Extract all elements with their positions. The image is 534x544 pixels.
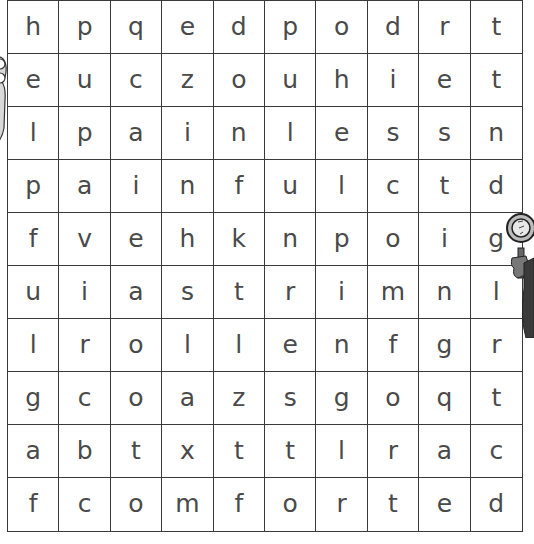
grid-cell[interactable]: z — [214, 372, 265, 425]
grid-cell[interactable]: i — [59, 266, 110, 319]
grid-cell[interactable]: r — [59, 319, 110, 372]
cartoon-character-icon — [0, 48, 8, 148]
grid-cell[interactable]: r — [316, 478, 367, 531]
grid-cell[interactable]: u — [265, 160, 316, 213]
grid-cell[interactable]: s — [419, 107, 470, 160]
magnifying-glass-icon — [504, 208, 534, 338]
grid-cell[interactable]: n — [265, 213, 316, 266]
grid-cell[interactable]: l — [8, 319, 59, 372]
grid-cell[interactable]: m — [368, 266, 419, 319]
grid-cell[interactable]: u — [8, 266, 59, 319]
grid-cell[interactable]: p — [316, 213, 367, 266]
grid-cell[interactable]: n — [162, 160, 213, 213]
grid-cell[interactable]: h — [162, 213, 213, 266]
grid-cell[interactable]: f — [368, 319, 419, 372]
grid-cell[interactable]: k — [214, 213, 265, 266]
grid-cell[interactable]: l — [162, 319, 213, 372]
grid-cell[interactable]: r — [368, 425, 419, 478]
grid-cell[interactable]: n — [471, 107, 522, 160]
grid-cell[interactable]: d — [214, 1, 265, 54]
grid-cell[interactable]: i — [111, 160, 162, 213]
grid-cell[interactable]: e — [419, 54, 470, 107]
grid-cell[interactable]: u — [59, 54, 110, 107]
grid-cell[interactable]: t — [419, 160, 470, 213]
grid-cell[interactable]: g — [8, 372, 59, 425]
grid-cell[interactable]: n — [419, 266, 470, 319]
grid-cell[interactable]: o — [111, 319, 162, 372]
grid-cell[interactable]: a — [8, 425, 59, 478]
grid-cell[interactable]: q — [111, 1, 162, 54]
grid-cell[interactable]: c — [471, 425, 522, 478]
grid-cell[interactable]: r — [265, 266, 316, 319]
grid-cell[interactable]: e — [265, 319, 316, 372]
grid-cell[interactable]: i — [368, 54, 419, 107]
grid-cell[interactable]: i — [419, 213, 470, 266]
grid-cell[interactable]: p — [8, 160, 59, 213]
grid-cell[interactable]: s — [265, 372, 316, 425]
grid-cell[interactable]: s — [368, 107, 419, 160]
word-search-grid: hpqedpodrteuczouhietlpainlessnpainfulctd… — [7, 0, 523, 532]
grid-cell[interactable]: f — [8, 478, 59, 531]
grid-cell[interactable]: i — [316, 266, 367, 319]
grid-cell[interactable]: z — [162, 54, 213, 107]
grid-cell[interactable]: e — [111, 213, 162, 266]
grid-cell[interactable]: d — [368, 1, 419, 54]
grid-cell[interactable]: o — [111, 372, 162, 425]
grid-cell[interactable]: d — [471, 478, 522, 531]
grid-cell[interactable]: g — [316, 372, 367, 425]
grid-cell[interactable]: a — [419, 425, 470, 478]
grid-cell[interactable]: f — [214, 160, 265, 213]
grid-cell[interactable]: g — [419, 319, 470, 372]
grid-cell[interactable]: o — [111, 478, 162, 531]
grid-cell[interactable]: t — [368, 478, 419, 531]
grid-cell[interactable]: m — [162, 478, 213, 531]
grid-cell[interactable]: t — [471, 1, 522, 54]
grid-cell[interactable]: t — [471, 372, 522, 425]
grid-cell[interactable]: l — [8, 107, 59, 160]
grid-cell[interactable]: i — [162, 107, 213, 160]
grid-cell[interactable]: t — [471, 54, 522, 107]
grid-cell[interactable]: c — [368, 160, 419, 213]
grid-cell[interactable]: p — [59, 1, 110, 54]
grid-cell[interactable]: e — [8, 54, 59, 107]
grid-cell[interactable]: t — [214, 266, 265, 319]
grid-cell[interactable]: o — [368, 213, 419, 266]
grid-cell[interactable]: c — [59, 478, 110, 531]
grid-cell[interactable]: o — [265, 478, 316, 531]
grid-cell[interactable]: o — [316, 1, 367, 54]
grid-cell[interactable]: p — [265, 1, 316, 54]
grid-cell[interactable]: q — [419, 372, 470, 425]
grid-cell[interactable]: l — [316, 425, 367, 478]
grid-cell[interactable]: a — [59, 160, 110, 213]
grid-cell[interactable]: f — [214, 478, 265, 531]
grid-cell[interactable]: o — [214, 54, 265, 107]
grid-cell[interactable]: a — [111, 107, 162, 160]
grid-cell[interactable]: a — [162, 372, 213, 425]
grid-cell[interactable]: v — [59, 213, 110, 266]
grid-cell[interactable]: x — [162, 425, 213, 478]
grid-cell[interactable]: d — [471, 160, 522, 213]
grid-cell[interactable]: b — [59, 425, 110, 478]
grid-cell[interactable]: l — [214, 319, 265, 372]
grid-cell[interactable]: r — [419, 1, 470, 54]
grid-cell[interactable]: t — [265, 425, 316, 478]
grid-cell[interactable]: c — [111, 54, 162, 107]
grid-cell[interactable]: f — [8, 213, 59, 266]
grid-cell[interactable]: u — [265, 54, 316, 107]
grid-cell[interactable]: h — [316, 54, 367, 107]
grid-cell[interactable]: l — [316, 160, 367, 213]
grid-cell[interactable]: e — [419, 478, 470, 531]
grid-cell[interactable]: o — [368, 372, 419, 425]
grid-cell[interactable]: a — [111, 266, 162, 319]
grid-cell[interactable]: s — [162, 266, 213, 319]
grid-cell[interactable]: e — [162, 1, 213, 54]
grid-cell[interactable]: t — [111, 425, 162, 478]
grid-cell[interactable]: l — [265, 107, 316, 160]
grid-cell[interactable]: n — [316, 319, 367, 372]
grid-cell[interactable]: h — [8, 1, 59, 54]
grid-cell[interactable]: c — [59, 372, 110, 425]
grid-cell[interactable]: p — [59, 107, 110, 160]
grid-cell[interactable]: n — [214, 107, 265, 160]
grid-cell[interactable]: e — [316, 107, 367, 160]
grid-cell[interactable]: t — [214, 425, 265, 478]
